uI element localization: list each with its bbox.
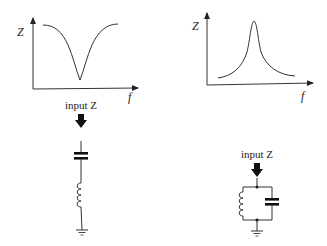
- right-impedance-graph: Z f: [192, 13, 313, 103]
- ground-icon: [76, 230, 88, 235]
- ground-icon: [251, 231, 263, 236]
- right-parallel-lc-circuit: [239, 178, 279, 236]
- right-x-axis: [207, 83, 313, 85]
- right-input-arrow-icon: [251, 163, 263, 177]
- left-x-axis: [33, 88, 138, 89]
- left-impedance-graph: Z f: [17, 18, 138, 104]
- left-input-arrow-icon: [75, 114, 87, 128]
- capacitor-icon: [265, 198, 279, 206]
- right-y-axis-label: Z: [192, 19, 199, 33]
- left-notch-curve: [43, 24, 118, 80]
- left-input-z-caption: input Z: [65, 99, 97, 111]
- right-peak-curve: [218, 21, 295, 78]
- capacitor-icon: [74, 152, 88, 160]
- inductor-icon: [239, 192, 243, 216]
- left-y-axis-label: Z: [17, 25, 24, 39]
- right-x-axis-label: f: [301, 89, 306, 103]
- left-series-lc-circuit: [74, 141, 88, 235]
- inductor-icon: [77, 183, 81, 207]
- right-input-z-caption: input Z: [241, 148, 273, 160]
- left-x-axis-label: f: [128, 90, 133, 104]
